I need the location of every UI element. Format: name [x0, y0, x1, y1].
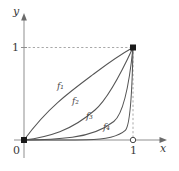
curve-label-f4: f₄: [103, 123, 110, 132]
x-axis-label: x: [160, 143, 166, 154]
open-point-marker: [130, 137, 135, 142]
y-axis-group: [21, 13, 27, 158]
curve-f4: [24, 48, 133, 141]
curve-f2: [24, 48, 133, 141]
tick-marks-group: [21, 48, 133, 143]
x-tick-label-1: 1: [130, 145, 137, 156]
curves-group: [24, 48, 133, 141]
curve-label-f1: f₁: [57, 82, 64, 91]
origin-point-marker: [21, 137, 27, 143]
function-family-plot: y x 1 1 0 f₁ f₂ f₃ f₄: [0, 0, 179, 171]
y-tick-label-1: 1: [12, 42, 19, 53]
corner-point-marker: [130, 45, 136, 51]
curve-f1: [24, 48, 133, 141]
plot-canvas: [0, 0, 179, 171]
curve-f3: [24, 48, 133, 141]
guide-lines-group: [24, 48, 133, 141]
curve-label-f3: f₃: [86, 112, 93, 121]
markers-group: [21, 45, 136, 144]
y-axis-label: y: [13, 6, 19, 17]
y-axis-arrowhead: [21, 13, 27, 21]
curve-label-f2: f₂: [72, 97, 79, 106]
origin-label: 0: [13, 145, 20, 156]
